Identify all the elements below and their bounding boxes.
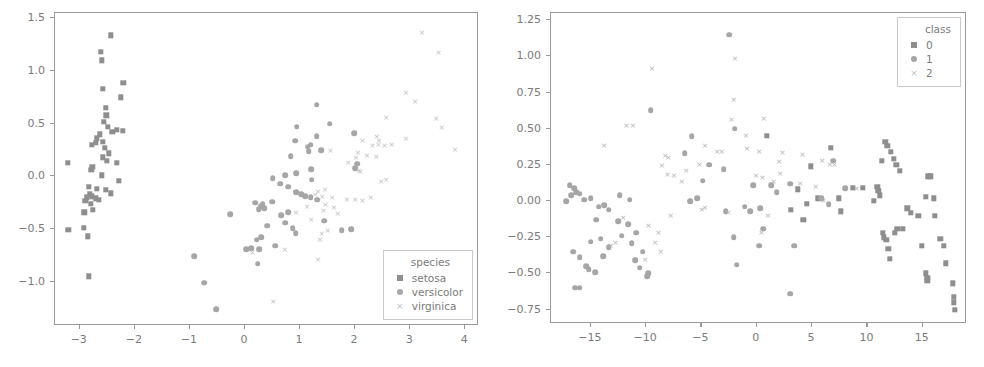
data-point bbox=[728, 117, 734, 123]
square-marker-icon bbox=[905, 42, 923, 48]
data-point bbox=[100, 86, 105, 91]
data-point bbox=[812, 184, 818, 190]
data-point bbox=[279, 213, 285, 219]
data-point bbox=[757, 205, 763, 211]
x-tick-label: 0 bbox=[240, 333, 247, 346]
data-point bbox=[66, 227, 71, 232]
data-point bbox=[646, 271, 652, 277]
data-point bbox=[192, 254, 198, 260]
data-point bbox=[570, 249, 576, 255]
data-point bbox=[779, 150, 785, 156]
y-tick bbox=[546, 19, 550, 20]
y-tick-label: −0.5 bbox=[0, 222, 45, 235]
data-point bbox=[315, 257, 321, 263]
data-point bbox=[658, 249, 664, 255]
data-point bbox=[256, 246, 262, 252]
data-point bbox=[731, 234, 737, 240]
data-point bbox=[293, 170, 299, 176]
data-point bbox=[588, 239, 594, 245]
data-point bbox=[792, 243, 798, 249]
data-point bbox=[388, 142, 394, 148]
y-tick-label: 1.0 bbox=[0, 63, 45, 76]
data-point bbox=[345, 160, 351, 166]
x-tick-label: −3 bbox=[71, 333, 87, 346]
data-point bbox=[351, 130, 357, 136]
x-tick bbox=[756, 323, 757, 327]
data-point bbox=[600, 253, 606, 259]
data-point bbox=[293, 230, 299, 236]
data-point bbox=[86, 274, 91, 279]
data-point bbox=[270, 176, 276, 182]
data-point bbox=[664, 172, 670, 178]
data-point bbox=[86, 184, 91, 189]
data-point bbox=[629, 240, 635, 246]
data-point bbox=[665, 155, 671, 161]
data-point bbox=[98, 49, 103, 54]
data-point bbox=[309, 177, 315, 183]
y-tick bbox=[546, 236, 550, 237]
data-point bbox=[412, 99, 418, 105]
data-point bbox=[364, 153, 370, 159]
legend-item-versicolor[interactable]: versicolor bbox=[391, 285, 463, 299]
data-point bbox=[588, 195, 594, 201]
y-tick-label: 1.25 bbox=[492, 13, 541, 26]
y-tick bbox=[546, 55, 550, 56]
x-tick-label: 3 bbox=[406, 333, 413, 346]
legend-label-virginica: virginica bbox=[409, 300, 457, 312]
x-tick bbox=[354, 325, 355, 329]
legend-item-virginica[interactable]: × virginica bbox=[391, 299, 463, 313]
data-point bbox=[886, 246, 891, 251]
data-point bbox=[96, 197, 101, 202]
data-point bbox=[243, 246, 249, 252]
legend-item-class-0[interactable]: 0 bbox=[905, 38, 951, 52]
data-point bbox=[282, 220, 288, 226]
data-point bbox=[383, 115, 389, 121]
data-point bbox=[826, 201, 832, 207]
data-point bbox=[679, 179, 685, 185]
data-point bbox=[831, 162, 837, 168]
data-point bbox=[667, 213, 673, 219]
data-point bbox=[943, 261, 948, 266]
data-point bbox=[951, 294, 956, 299]
data-point bbox=[598, 236, 604, 242]
data-point bbox=[106, 150, 111, 155]
x-tick-label: 15 bbox=[915, 331, 929, 344]
data-point bbox=[601, 143, 607, 149]
data-point bbox=[110, 129, 115, 134]
data-point bbox=[249, 250, 255, 256]
x-tick bbox=[811, 323, 812, 327]
legend-item-setosa[interactable]: setosa bbox=[391, 271, 463, 285]
legend-item-class-2[interactable]: × 2 bbox=[905, 66, 951, 80]
legend-item-class-1[interactable]: 1 bbox=[905, 52, 951, 66]
y-tick-label: 0.0 bbox=[0, 169, 45, 182]
x-tick bbox=[590, 323, 591, 327]
data-point bbox=[642, 257, 648, 263]
data-point bbox=[403, 136, 409, 142]
data-point bbox=[308, 217, 314, 223]
data-point bbox=[696, 162, 702, 168]
data-point bbox=[758, 230, 764, 236]
y-tick-label: 0.50 bbox=[492, 121, 541, 134]
legend-species[interactable]: species setosa versicolor × virginica bbox=[383, 250, 473, 320]
data-point bbox=[592, 269, 598, 275]
y-tick bbox=[546, 164, 550, 165]
data-point bbox=[860, 185, 865, 190]
data-point bbox=[919, 243, 924, 248]
data-point bbox=[924, 278, 929, 283]
data-point bbox=[931, 195, 936, 200]
data-point bbox=[702, 143, 708, 149]
data-point bbox=[201, 280, 207, 286]
legend-title-class: class bbox=[905, 23, 951, 35]
data-point bbox=[261, 205, 267, 211]
data-point bbox=[853, 186, 859, 192]
data-point bbox=[726, 32, 732, 38]
data-point bbox=[320, 208, 326, 214]
x-tick bbox=[700, 323, 701, 327]
legend-class[interactable]: class 0 1 × 2 bbox=[897, 17, 961, 87]
data-point bbox=[718, 149, 724, 155]
data-point bbox=[951, 300, 956, 305]
data-point bbox=[619, 233, 625, 239]
data-point bbox=[88, 201, 93, 206]
data-point bbox=[928, 174, 933, 179]
chart-panel-right: class 0 1 × 2 −15−10−50510151.251.000.75… bbox=[492, 0, 984, 367]
